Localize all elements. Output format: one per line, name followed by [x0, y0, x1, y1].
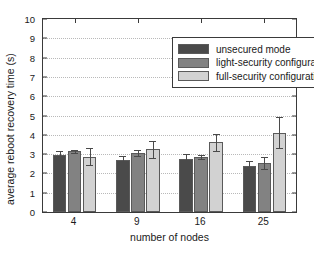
legend-label: full-security configuration — [216, 71, 314, 82]
y-axis-tick-label: 9 — [11, 33, 35, 44]
x-axis-tick-label: 25 — [258, 216, 269, 227]
y-axis-tick-label: 2 — [11, 168, 35, 179]
gridline — [43, 116, 296, 117]
x-axis-tick-mark — [264, 19, 265, 23]
y-axis-tick-label: 5 — [11, 110, 35, 121]
y-axis-tick-mark — [292, 134, 296, 135]
error-bar-cap — [56, 151, 63, 152]
y-axis-tick-label: 1 — [11, 187, 35, 198]
error-bar-cap — [198, 159, 205, 160]
error-bar — [153, 141, 154, 158]
error-bar-cap — [134, 156, 141, 157]
y-axis-tick-label: 0 — [11, 207, 35, 218]
bar — [258, 163, 272, 212]
y-axis-tick-mark — [292, 212, 296, 213]
legend: unsecured mode light-security configurat… — [172, 37, 314, 88]
y-axis-tick-label: 4 — [11, 129, 35, 140]
bar — [116, 160, 130, 212]
bar — [131, 153, 145, 212]
error-bar-cap — [86, 165, 93, 166]
error-bar-cap — [134, 150, 141, 151]
y-axis-tick-mark — [292, 19, 296, 20]
x-axis-tick-mark — [201, 19, 202, 23]
y-axis-tick-mark — [292, 96, 296, 97]
error-bar-cap — [183, 154, 190, 155]
error-bar — [264, 157, 265, 168]
y-axis-tick-mark — [43, 192, 47, 193]
gridline — [43, 96, 296, 97]
y-axis-tick-mark — [43, 96, 47, 97]
bar — [243, 166, 257, 212]
error-bar-cap — [246, 170, 253, 171]
error-bar-cap — [246, 161, 253, 162]
error-bar-cap — [213, 134, 220, 135]
legend-swatch-unsecured-mode — [178, 44, 209, 54]
error-bar-cap — [86, 148, 93, 149]
x-axis-tick-label: 16 — [195, 216, 206, 227]
y-axis-tick-mark — [43, 115, 47, 116]
error-bar — [123, 156, 124, 163]
y-axis-tick-mark — [43, 57, 47, 58]
error-bar — [90, 148, 91, 165]
y-axis-tick-label: 7 — [11, 71, 35, 82]
y-axis-tick-label: 10 — [11, 14, 35, 25]
error-bar-cap — [149, 158, 156, 159]
error-bar-cap — [149, 141, 156, 142]
gridline — [43, 135, 296, 136]
bar — [179, 159, 193, 212]
error-bar-cap — [183, 164, 190, 165]
y-axis-tick-label: 8 — [11, 52, 35, 63]
legend-item: unsecured mode — [178, 43, 314, 56]
bar — [194, 157, 208, 212]
y-axis-tick-mark — [43, 212, 47, 213]
legend-swatch-full-security — [178, 71, 209, 81]
y-axis-tick-label: 6 — [11, 91, 35, 102]
error-bar-cap — [119, 163, 126, 164]
y-axis-tick-label: 3 — [11, 149, 35, 160]
error-bar — [186, 154, 187, 165]
y-axis-tick-mark — [43, 76, 47, 77]
x-axis-label: number of nodes — [42, 231, 297, 243]
error-bar-cap — [119, 156, 126, 157]
x-axis-tick-label: 4 — [71, 216, 77, 227]
y-axis-tick-mark — [43, 173, 47, 174]
bar — [68, 151, 82, 212]
figure: average reboot recovery time (s) 0123456… — [0, 0, 314, 258]
y-axis-tick-mark — [292, 192, 296, 193]
bar — [53, 155, 67, 212]
y-axis-tick-mark — [292, 154, 296, 155]
error-bar-cap — [276, 148, 283, 149]
error-bar — [249, 161, 250, 169]
x-axis-tick-mark — [138, 19, 139, 23]
y-axis-tick-mark — [43, 19, 47, 20]
y-axis-tick-mark — [43, 134, 47, 135]
legend-swatch-light-security — [178, 58, 209, 68]
error-bar-cap — [56, 159, 63, 160]
error-bar-cap — [71, 153, 78, 154]
y-axis-tick-mark — [43, 154, 47, 155]
error-bar-cap — [198, 155, 205, 156]
legend-label: unsecured mode — [216, 44, 291, 55]
x-axis-tick-mark — [75, 19, 76, 23]
error-bar — [279, 117, 280, 148]
error-bar — [60, 151, 61, 159]
legend-item: full-security configuration — [178, 70, 314, 83]
error-bar-cap — [213, 151, 220, 152]
plot-area: 012345678910 unsecured mode light-securi… — [42, 18, 297, 213]
error-bar-cap — [261, 157, 268, 158]
x-axis-tick-label: 9 — [134, 216, 140, 227]
y-axis-tick-mark — [43, 38, 47, 39]
bar — [209, 142, 223, 212]
legend-label: light-security configuration — [216, 57, 314, 68]
legend-item: light-security configuration — [178, 56, 314, 69]
error-bar-cap — [261, 169, 268, 170]
y-axis-tick-mark — [292, 115, 296, 116]
error-bar-cap — [71, 150, 78, 151]
y-axis-tick-mark — [292, 173, 296, 174]
error-bar — [216, 134, 217, 150]
error-bar-cap — [276, 117, 283, 118]
